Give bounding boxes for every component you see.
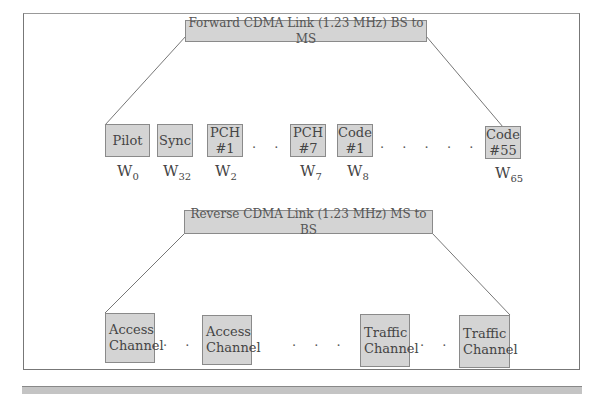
channel-code-55: Code #55 xyxy=(485,126,521,159)
walsh-code: W8 xyxy=(347,162,369,182)
channel-label: PCH xyxy=(293,125,323,141)
walsh-code: W32 xyxy=(163,162,191,182)
walsh-code: W2 xyxy=(215,162,237,182)
channel-label: Access xyxy=(206,324,251,340)
channel-label: Channel xyxy=(463,342,518,358)
channel-pch-1: PCH #1 xyxy=(207,124,243,157)
channel-number: #1 xyxy=(215,141,234,157)
channel-label: Channel xyxy=(109,338,164,354)
channel-pilot: Pilot xyxy=(105,124,150,157)
channel-label: Traffic xyxy=(364,325,407,341)
reverse-link-header: Reverse CDMA Link (1.23 MHz) MS to BS xyxy=(184,210,433,234)
walsh-code: W65 xyxy=(495,164,523,184)
reverse-link-title: Reverse CDMA Link (1.23 MHz) MS to BS xyxy=(185,206,432,238)
channel-label: Access xyxy=(109,322,154,338)
channel-label: Sync xyxy=(159,133,191,149)
channel-label: Traffic xyxy=(463,326,506,342)
walsh-code: W7 xyxy=(300,162,322,182)
channel-number: #55 xyxy=(489,143,516,159)
channel-access-1: Access Channel xyxy=(105,313,155,363)
channel-label: Code xyxy=(338,125,372,141)
forward-link-title: Forward CDMA Link (1.23 MHz) BS to MS xyxy=(186,15,426,47)
ellipsis: . . . xyxy=(380,136,436,151)
channel-code-1: Code #1 xyxy=(337,124,373,157)
channel-pch-7: PCH #7 xyxy=(290,124,326,157)
forward-link-header: Forward CDMA Link (1.23 MHz) BS to MS xyxy=(185,20,427,42)
ellipsis: . . . xyxy=(292,334,348,349)
channel-sync: Sync xyxy=(157,124,193,157)
channel-label: Channel xyxy=(364,341,419,357)
channel-label: Code xyxy=(486,127,520,143)
channel-number: #7 xyxy=(298,141,317,157)
channel-label: Pilot xyxy=(112,133,142,149)
channel-label: Channel xyxy=(206,340,261,356)
channel-access-2: Access Channel xyxy=(202,315,252,365)
channel-traffic-2: Traffic Channel xyxy=(459,315,510,368)
channel-number: #1 xyxy=(345,141,364,157)
channel-traffic-1: Traffic Channel xyxy=(360,314,410,367)
walsh-code: W0 xyxy=(117,162,139,182)
channel-label: PCH xyxy=(210,125,240,141)
